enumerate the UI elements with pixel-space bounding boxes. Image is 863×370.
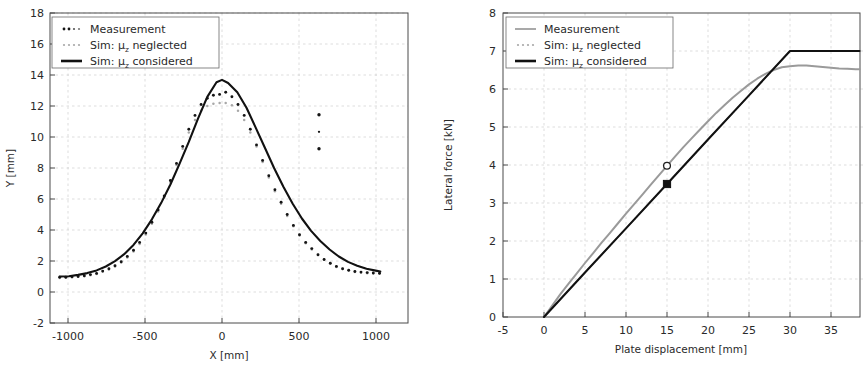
simulation-point-marker[interactable] xyxy=(663,180,670,187)
right-x-tickmarks xyxy=(503,312,831,317)
left-legend: Measurement Sim: μz neglected Sim: μz co… xyxy=(52,17,219,70)
left-ytick-label: 8 xyxy=(37,162,44,175)
right-ytick-label: 4 xyxy=(489,159,496,172)
right-legend-label-measurement: Measurement xyxy=(544,23,620,36)
right-ytick-label: 0 xyxy=(489,311,496,324)
right-ytick-label: 1 xyxy=(489,273,496,286)
right-xtick-label: 20 xyxy=(701,324,715,337)
right-ytick-label: 7 xyxy=(489,45,496,58)
left-x-tickmarks xyxy=(68,318,376,323)
left-ytick-label: 14 xyxy=(30,69,44,82)
left-ytick-label: 0 xyxy=(37,286,44,299)
right-legend-label-sim-neglected: Sim: μz neglected xyxy=(544,39,641,54)
left-ytick-label: 4 xyxy=(37,224,44,237)
left-xtick-label: -1000 xyxy=(52,330,84,343)
left-series-sim-considered xyxy=(60,80,381,277)
right-legend: Measurement Sim: μz neglected Sim: μz co… xyxy=(506,17,673,70)
right-chart-svg: 8 7 6 5 4 3 2 1 0 -5 0 5 10 15 20 25 30 … xyxy=(432,0,863,370)
right-ytick-label: 6 xyxy=(489,83,496,96)
right-xtick-label: 30 xyxy=(783,324,797,337)
left-xtick-label: 500 xyxy=(289,330,310,343)
left-x-axis-label: X [mm] xyxy=(209,349,248,361)
left-ytick-label: 18 xyxy=(30,7,44,20)
left-legend-label-measurement: Measurement xyxy=(90,23,166,36)
left-xtick-label: 1000 xyxy=(362,330,390,343)
left-legend-label-sim-neglected: Sim: μz neglected xyxy=(90,39,187,54)
left-ytick-label: 2 xyxy=(37,255,44,268)
left-ytick-label: 6 xyxy=(37,193,44,206)
right-ytick-label: 3 xyxy=(489,197,496,210)
right-xtick-label: 5 xyxy=(582,324,589,337)
left-xtick-label: -500 xyxy=(133,330,158,343)
left-ytick-label: 10 xyxy=(30,131,44,144)
right-series-sim-considered xyxy=(544,51,860,317)
left-legend-label-sim-considered: Sim: μz considered xyxy=(90,55,193,70)
right-ytick-label: 5 xyxy=(489,121,496,134)
left-y-axis-label: Y [mm] xyxy=(4,149,16,188)
right-xtick-label: -5 xyxy=(498,324,509,337)
left-xtick-label: 0 xyxy=(219,330,226,343)
left-ytick-label: 16 xyxy=(30,38,44,51)
chart-panel-left: 18 16 14 12 10 8 6 4 2 0 -2 -1000 -500 0… xyxy=(0,0,432,370)
right-xtick-label: 25 xyxy=(742,324,756,337)
left-series-outliers xyxy=(317,113,320,151)
right-xtick-label: 0 xyxy=(541,324,548,337)
right-xtick-label: 15 xyxy=(660,324,674,337)
right-series-sim-neglected xyxy=(544,51,860,317)
left-chart-svg: 18 16 14 12 10 8 6 4 2 0 -2 -1000 -500 0… xyxy=(0,0,432,370)
right-xtick-label: 35 xyxy=(824,324,838,337)
left-ytick-label: 12 xyxy=(30,100,44,113)
measurement-point-marker[interactable] xyxy=(664,162,671,169)
right-x-axis-label: Plate displacement [mm] xyxy=(615,343,747,355)
right-ytick-label: 2 xyxy=(489,235,496,248)
right-legend-label-sim-considered: Sim: μz considered xyxy=(544,55,647,70)
right-y-axis-label: Lateral force [kN] xyxy=(442,119,454,211)
figure-container: 18 16 14 12 10 8 6 4 2 0 -2 -1000 -500 0… xyxy=(0,0,863,370)
chart-panel-right: 8 7 6 5 4 3 2 1 0 -5 0 5 10 15 20 25 30 … xyxy=(432,0,863,370)
left-ytick-label: -2 xyxy=(33,317,44,330)
right-xtick-label: 10 xyxy=(619,324,633,337)
right-ytick-label: 8 xyxy=(489,7,496,20)
